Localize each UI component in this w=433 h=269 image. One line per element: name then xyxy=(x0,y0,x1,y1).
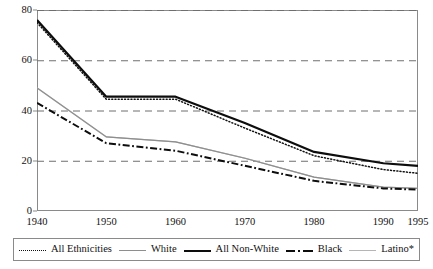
chart-legend: All EthnicitiesWhiteAll Non-WhiteBlackLa… xyxy=(13,238,420,261)
line-series xyxy=(37,88,418,189)
legend-line-swatch-icon xyxy=(349,246,376,254)
x-axis-tick-label: 1950 xyxy=(96,217,117,228)
x-axis-tick-label: 1995 xyxy=(408,217,429,228)
line-series xyxy=(37,20,418,166)
legend-line-swatch-icon xyxy=(184,246,211,254)
series-lines xyxy=(37,10,418,211)
x-axis-tick-label: 1960 xyxy=(165,217,186,228)
x-axis-tick-label: 1990 xyxy=(373,217,394,228)
line-series xyxy=(37,88,418,189)
legend-item-label: White xyxy=(151,244,177,255)
legend-item[interactable]: White xyxy=(119,244,177,255)
y-axis-tick-label: 40 xyxy=(22,105,33,116)
y-axis-tick-label: 80 xyxy=(22,5,33,16)
legend-item-label: All Ethnicities xyxy=(51,244,112,255)
line-series xyxy=(37,23,418,174)
x-axis-tick-label: 1940 xyxy=(27,217,48,228)
legend-item-label: Latino* xyxy=(381,244,414,255)
legend-line-swatch-icon xyxy=(119,246,146,254)
legend-item-label: All Non-White xyxy=(216,244,279,255)
legend-item[interactable]: All Ethnicities xyxy=(19,244,112,255)
x-axis-tick-label: 1970 xyxy=(234,217,255,228)
y-axis-tick-label: 20 xyxy=(22,156,33,167)
legend-item[interactable]: Latino* xyxy=(349,244,414,255)
legend-item[interactable]: Black xyxy=(286,244,343,255)
y-axis-tick-label: 0 xyxy=(27,206,32,217)
legend-line-swatch-icon xyxy=(286,246,313,254)
chart-figure: 020406080 1940195019601970198019901995 A… xyxy=(0,0,433,269)
legend-item[interactable]: All Non-White xyxy=(184,244,279,255)
legend-item-label: Black xyxy=(318,244,343,255)
plot-area: 020406080 1940195019601970198019901995 xyxy=(37,10,418,211)
x-axis-tick-label: 1980 xyxy=(304,217,325,228)
y-axis-tick-label: 60 xyxy=(22,55,33,66)
legend-line-swatch-icon xyxy=(19,246,46,254)
